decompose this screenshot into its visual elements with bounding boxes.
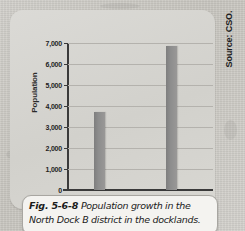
- source-note: Source: CSO.: [224, 1, 234, 77]
- gridline: [68, 106, 213, 107]
- caption-text-line-2: North Dock B district in the docklands.: [29, 213, 212, 227]
- y-axis-tick: [64, 106, 68, 107]
- bar: [94, 112, 105, 190]
- paper-blotch: [100, 3, 140, 9]
- gridline: [68, 148, 213, 149]
- paper-blotch: [224, 120, 237, 140]
- y-axis-tick-label: 3,000: [45, 124, 62, 131]
- y-axis-tick-label: 7,000: [45, 40, 62, 47]
- x-axis-line: [63, 189, 213, 191]
- y-axis-tick: [64, 148, 68, 149]
- y-axis-tick-label: 0: [58, 187, 62, 194]
- figure-caption-box: Fig. 5-6-8 Population growth in the Nort…: [22, 195, 218, 231]
- gridline: [68, 64, 213, 65]
- y-axis-tick-label: 6,000: [45, 61, 62, 68]
- figure-page: Population 01,0002,0003,0004,0005,0006,0…: [0, 0, 245, 231]
- y-axis-tick-label: 5,000: [45, 82, 62, 89]
- y-axis-tick-label: 2,000: [45, 145, 62, 152]
- y-axis-line: [67, 43, 69, 190]
- y-axis-tick: [64, 169, 68, 170]
- y-axis-tick: [64, 127, 68, 128]
- gridline: [68, 85, 213, 86]
- caption-line-1: Fig. 5-6-8 Population growth in the: [29, 199, 212, 213]
- chart-panel: Population 01,0002,0003,0004,0005,0006,0…: [10, 10, 215, 209]
- plot-inner: 01,0002,0003,0004,0005,0006,0007,000 200…: [68, 43, 213, 190]
- y-axis-title: Population: [30, 53, 39, 133]
- gridline: [68, 169, 213, 170]
- gridline: [68, 127, 213, 128]
- bar: [166, 46, 177, 190]
- y-axis-tick: [64, 43, 68, 44]
- plot-area: 01,0002,0003,0004,0005,0006,0007,000 200…: [68, 41, 213, 191]
- y-axis-tick: [64, 190, 68, 191]
- figure-number-label: Fig. 5-6-8: [29, 200, 78, 211]
- y-axis-tick: [64, 64, 68, 65]
- y-axis-tick: [64, 85, 68, 86]
- gridline: [68, 43, 213, 44]
- y-axis-tick-label: 4,000: [45, 103, 62, 110]
- caption-text-line-1: Population growth in the: [81, 200, 191, 211]
- y-axis-tick-label: 1,000: [45, 166, 62, 173]
